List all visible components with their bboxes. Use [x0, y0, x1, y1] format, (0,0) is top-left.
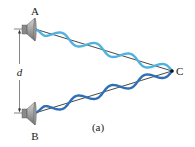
arrow-up-icon — [18, 30, 21, 34]
source-b-label: B — [31, 130, 38, 142]
point-c-label: C — [176, 65, 183, 77]
arrow-down-icon — [18, 109, 21, 113]
speaker-b-icon — [22, 102, 36, 125]
point-c-marker — [170, 69, 174, 73]
separation-label: d — [17, 66, 23, 78]
speaker-a-icon — [22, 18, 36, 41]
source-a-label: A — [31, 5, 39, 17]
two-source-interference-diagram: d A B C (a) — [0, 0, 195, 147]
figure-caption: (a) — [92, 121, 105, 134]
